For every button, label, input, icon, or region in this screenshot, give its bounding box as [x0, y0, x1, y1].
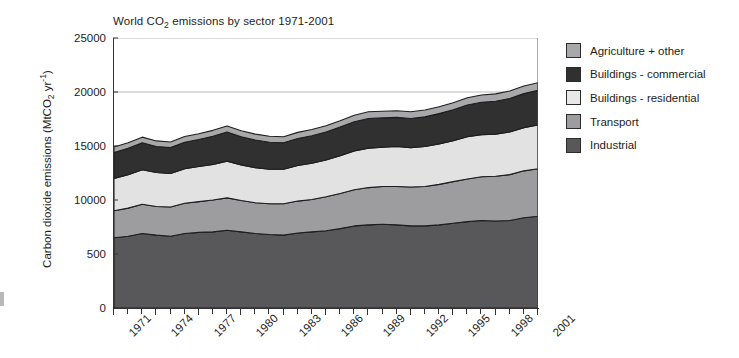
chart-title-pre: World CO [113, 15, 164, 27]
x-tick-label: 1983 [296, 312, 323, 339]
legend-swatch [566, 138, 581, 153]
x-tick-label: 1986 [338, 312, 365, 339]
y-tick-mark [113, 308, 118, 309]
plot-area [113, 38, 538, 308]
chart-title-post: emissions by sector 1971-2001 [169, 15, 334, 27]
x-tick-label: 1980 [254, 312, 281, 339]
scan-edge-artifact [0, 292, 4, 306]
legend-label: Buildings - residential [590, 92, 699, 104]
legend-item[interactable]: Buildings - residential [566, 86, 738, 110]
legend-label: Buildings - commercial [590, 68, 706, 80]
legend-label: Transport [590, 116, 639, 128]
x-tick-label: 2001 [550, 312, 577, 339]
y-tick-mark [113, 200, 118, 201]
y-tick-label: 20000 [74, 86, 106, 98]
legend-item[interactable]: Agriculture + other [566, 39, 738, 63]
legend-label: Industrial [590, 139, 637, 151]
y-tick-mark [113, 146, 118, 147]
legend-label: Agriculture + other [590, 45, 684, 57]
legend-swatch [566, 90, 581, 105]
legend-item[interactable]: Buildings - commercial [566, 63, 738, 87]
x-tick-label: 1977 [211, 312, 238, 339]
legend-swatch [566, 114, 581, 129]
y-tick-label: 15000 [74, 140, 106, 152]
y-tick-label: 500 [87, 248, 106, 260]
chart-legend: Agriculture + otherBuildings - commercia… [566, 39, 738, 157]
y-tick-mark [113, 254, 118, 255]
legend-item[interactable]: Transport [566, 110, 738, 134]
y-tick-mark [113, 38, 118, 39]
legend-item[interactable]: Industrial [566, 133, 738, 157]
legend-swatch [566, 43, 581, 58]
y-tick-label: 0 [100, 302, 106, 314]
y-tick-mark [113, 92, 118, 93]
x-tick-label: 1971 [126, 312, 153, 339]
x-tick-label: 1992 [423, 312, 450, 339]
chart-title: World CO2 emissions by sector 1971-2001 [113, 15, 413, 30]
stacked-area-svg [114, 38, 538, 308]
y-tick-label: 25000 [74, 32, 106, 44]
x-axis-tick-labels: 1971197419771980198319861989199219951998… [113, 312, 539, 358]
x-tick-label: 1974 [169, 312, 196, 339]
x-tick-label: 1998 [508, 312, 535, 339]
chart-figure: World CO2 emissions by sector 1971-2001 … [0, 0, 739, 358]
y-axis-tick-labels: 250002000015000100005000 [40, 38, 106, 308]
x-tick-label: 1995 [466, 312, 493, 339]
x-tick-label: 1989 [381, 312, 408, 339]
legend-swatch [566, 67, 581, 82]
y-tick-label: 10000 [74, 194, 106, 206]
